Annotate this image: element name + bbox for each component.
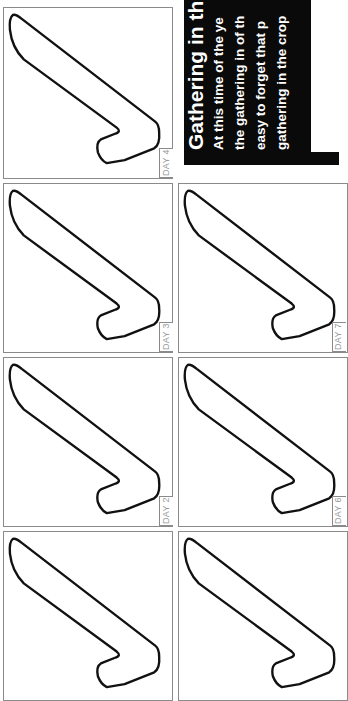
shape-outline-icon xyxy=(4,184,172,352)
shape-outline-icon xyxy=(179,532,347,700)
day-label: DAY 3 xyxy=(161,323,171,350)
drawing-panel-day-6[interactable] xyxy=(178,357,348,527)
shape-outline-icon xyxy=(179,358,347,526)
article-line: gathering in the crop xyxy=(271,0,292,152)
article-bar xyxy=(184,152,339,165)
drawing-panel-day-2[interactable] xyxy=(3,357,173,527)
shape-outline-icon xyxy=(179,184,347,352)
article-line: easy to forget that p xyxy=(250,0,271,152)
drawing-panel-day-5[interactable] xyxy=(178,531,348,701)
drawing-panel-day-3[interactable] xyxy=(3,183,173,353)
article-text: Gathering in the At this time of the ye … xyxy=(184,0,292,152)
article-line: At this time of the ye xyxy=(208,0,229,152)
article-line: the gathering in of th xyxy=(229,0,250,152)
shape-outline-icon xyxy=(4,532,172,700)
drawing-panel-day-1[interactable] xyxy=(3,531,173,701)
article-box: Gathering in the At this time of the ye … xyxy=(184,0,311,152)
article-title: Gathering in the xyxy=(184,0,208,152)
day-label: DAY 7 xyxy=(333,323,343,350)
shape-outline-icon xyxy=(4,8,172,178)
shape-outline-icon xyxy=(4,358,172,526)
drawing-panel-day-7[interactable] xyxy=(178,183,348,353)
day-label: DAY 6 xyxy=(333,497,343,524)
day-label: DAY 4 xyxy=(161,149,171,176)
day-label: DAY 2 xyxy=(161,497,171,524)
drawing-panel-day-4[interactable] xyxy=(3,7,173,179)
